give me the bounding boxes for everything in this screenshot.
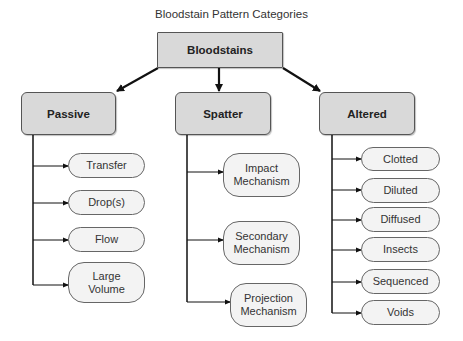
category-node-altered: Altered [319, 92, 415, 135]
leaf-node-sequenced: Sequenced [361, 269, 440, 294]
leaf-node-impact-mechanism: Impact Mechanism [223, 153, 300, 197]
leaf-node-drops: Drop(s) [68, 190, 145, 215]
leaf-node-voids: Voids [361, 300, 440, 325]
leaf-node-flow: Flow [68, 227, 145, 252]
category-node-passive: Passive [21, 92, 116, 135]
leaf-node-large-volume: Large Volume [68, 262, 145, 303]
leaf-node-clotted: Clotted [361, 147, 440, 171]
leaf-node-diffused: Diffused [361, 207, 440, 232]
leaf-node-secondary-mechanism: Secondary Mechanism [223, 221, 300, 265]
leaf-node-insects: Insects [361, 237, 440, 262]
arrow-to-passive [117, 68, 158, 91]
leaf-node-projection-mechanism: Projection Mechanism [230, 283, 307, 327]
leaf-node-transfer: Transfer [68, 153, 145, 178]
root-node-bloodstains: Bloodstains [157, 32, 283, 68]
category-node-spatter: Spatter [175, 92, 271, 135]
leaf-node-diluted: Diluted [361, 178, 440, 203]
arrow-to-altered [283, 68, 320, 91]
